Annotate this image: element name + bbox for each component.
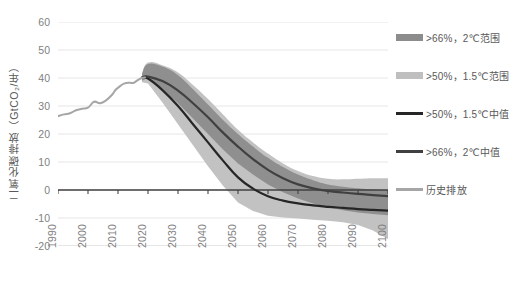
legend-item-label: >66%，2℃中值: [426, 144, 500, 159]
y-axis-tick-label: 0: [44, 184, 50, 196]
x-axis-tick-label: 2040: [196, 224, 208, 248]
y-axis-tick-label: 50: [38, 44, 50, 56]
y-axis-tick-label: 20: [38, 128, 50, 140]
y-axis-title-text: 二氧化碳排放（GtCO₂/年）: [6, 60, 21, 200]
legend-item[interactable]: >50%，1.5℃范围: [396, 68, 509, 83]
x-axis-tick-label: 2020: [136, 224, 148, 248]
x-axis-tick-label: 1990: [46, 224, 58, 248]
legend-item[interactable]: >66%，2℃中值: [396, 144, 500, 159]
legend-swatch-icon: [396, 72, 423, 79]
legend-item-label: >50%，1.5℃中值: [426, 106, 509, 121]
legend-item[interactable]: 历史排放: [396, 182, 467, 197]
x-axis-tick-label: 2080: [316, 224, 328, 248]
y-axis-tick-label: 30: [38, 100, 50, 112]
legend-item-label: >66%，2℃范围: [426, 30, 500, 45]
historical-emissions-line: [58, 77, 145, 116]
x-axis-tick-label: 2070: [286, 224, 298, 248]
y-axis-tick-label: 60: [38, 16, 50, 28]
legend-swatch-icon: [396, 188, 423, 191]
y-axis-tick-label: 40: [38, 72, 50, 84]
x-axis-tick-label: 2100: [376, 224, 388, 248]
y-axis-tick-label: 10: [38, 156, 50, 168]
plot-area: [58, 22, 388, 246]
plot-svg: [58, 22, 388, 246]
legend-swatch-icon: [396, 150, 423, 153]
legend-item-label: >50%，1.5℃范围: [426, 68, 509, 83]
legend-item-label: 历史排放: [426, 182, 467, 197]
x-axis-tick-label: 2060: [256, 224, 268, 248]
emissions-pathway-chart: 二氧化碳排放（GtCO₂/年） 6050403020100-10-20 1990…: [0, 0, 531, 285]
x-axis-tick-label: 2050: [226, 224, 238, 248]
x-axis-tick-label: 2030: [166, 224, 178, 248]
chart-legend: >66%，2℃范围>50%，1.5℃范围>50%，1.5℃中值>66%，2℃中值…: [396, 18, 528, 233]
y-axis-title: 二氧化碳排放（GtCO₂/年）: [2, 0, 24, 260]
legend-item[interactable]: >66%，2℃范围: [396, 30, 500, 45]
x-axis-tick-label: 2000: [76, 224, 88, 248]
x-axis-ticks: 1990200020102020203020402050206020702080…: [58, 246, 388, 285]
y-axis-tick-label: -10: [35, 212, 50, 224]
legend-item[interactable]: >50%，1.5℃中值: [396, 106, 509, 121]
legend-swatch-icon: [396, 34, 423, 41]
x-axis-tick-label: 2010: [106, 224, 118, 248]
x-axis-tick-label: 2090: [346, 224, 358, 248]
legend-swatch-icon: [396, 112, 423, 115]
